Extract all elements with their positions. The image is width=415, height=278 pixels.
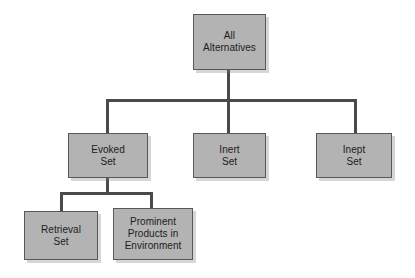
node-inept-set[interactable]: Inept Set (316, 133, 392, 178)
node-evoked-set[interactable]: Evoked Set (68, 133, 148, 178)
node-prominent-products-label: Prominent Products in Environment (123, 216, 184, 251)
node-inept-set-label: Inept Set (341, 144, 368, 168)
node-inert-set[interactable]: Inert Set (193, 133, 266, 178)
node-prominent-products[interactable]: Prominent Products in Environment (113, 208, 193, 260)
node-retrieval-set-label: Retrieval Set (39, 224, 83, 248)
connector-drop-prominent-products (150, 192, 153, 209)
connector-level3-bar (60, 192, 153, 195)
node-all-alternatives-label: All Alternatives (201, 30, 258, 54)
connector-all-alternatives-stem (227, 70, 230, 101)
diagram-canvas: All Alternatives Evoked Set Inert Set In… (0, 0, 415, 278)
node-evoked-set-label: Evoked Set (89, 144, 127, 168)
node-all-alternatives[interactable]: All Alternatives (193, 14, 266, 70)
connector-drop-inept-set (354, 99, 357, 134)
connector-drop-retrieval-set (60, 192, 63, 212)
connector-drop-evoked-set (106, 99, 109, 134)
connector-level2-bar (106, 99, 357, 102)
node-inert-set-label: Inert Set (217, 144, 241, 168)
node-retrieval-set[interactable]: Retrieval Set (24, 211, 98, 260)
connector-drop-inert-set (227, 99, 230, 134)
